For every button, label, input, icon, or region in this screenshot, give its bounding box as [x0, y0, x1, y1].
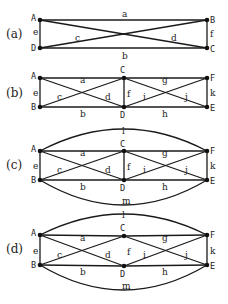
- edge-label-j: j: [184, 250, 188, 260]
- edge-b: [40, 265, 124, 266]
- edge-label-l: l: [122, 126, 125, 136]
- node-F: [205, 233, 210, 238]
- node-F: [205, 149, 210, 154]
- node-D: [122, 178, 127, 183]
- node-label-D: D: [120, 269, 125, 279]
- edge-label-m: m: [122, 196, 131, 206]
- edge-label-f: f: [127, 247, 131, 257]
- edge-label-i: i: [143, 250, 146, 260]
- edge-label-e: e: [33, 27, 38, 37]
- node-B: [38, 263, 43, 268]
- node-label-C: C: [120, 65, 125, 75]
- panel-c: lmabcdefghijkACFBDE(c): [6, 126, 216, 206]
- node-label-B: B: [210, 15, 215, 25]
- edge-label-l: l: [122, 210, 125, 220]
- edge-label-a: a: [80, 233, 86, 243]
- node-B: [38, 178, 43, 183]
- edge-label-b: b: [80, 267, 86, 277]
- node-label-F: F: [210, 73, 215, 83]
- edge-label-j: j: [184, 92, 188, 102]
- edge-label-b: b: [80, 109, 86, 119]
- edge-h: [124, 265, 207, 266]
- node-B: [38, 105, 43, 110]
- edge-label-a: a: [122, 9, 128, 19]
- edge-label-b: b: [80, 182, 86, 192]
- node-C: [122, 76, 127, 81]
- edge-label-k: k: [210, 88, 216, 98]
- edge-label-c: c: [57, 250, 62, 260]
- node-A: [38, 18, 43, 23]
- node-label-D: D: [120, 183, 125, 193]
- node-B: [205, 18, 210, 23]
- panel-label-a: (a): [6, 27, 23, 41]
- edge-label-h: h: [162, 109, 168, 119]
- node-F: [205, 76, 210, 81]
- graph-diagram: abcdefABCD(a)abcdefghijkACFBDE(b)lmabcde…: [0, 0, 228, 304]
- edge-label-f: f: [127, 89, 131, 99]
- edge-label-a: a: [80, 148, 86, 158]
- edge-label-c: c: [57, 165, 62, 175]
- panel-label-d: (d): [6, 242, 23, 256]
- panel-a: abcdefABCD(a): [6, 9, 215, 61]
- edge-label-f: f: [210, 29, 214, 39]
- panel-b: abcdefghijkACFBDE(b): [6, 65, 216, 120]
- node-label-E: E: [210, 261, 215, 271]
- node-label-B: B: [31, 175, 36, 185]
- node-label-D: D: [120, 110, 125, 120]
- node-A: [38, 149, 43, 154]
- node-E: [205, 105, 210, 110]
- panel-d: lmabcdefghijkACFBDE(d): [6, 210, 216, 291]
- edge-label-d: d: [171, 33, 177, 43]
- node-label-B: B: [31, 102, 36, 112]
- edge-label-c: c: [75, 33, 80, 43]
- node-C: [122, 149, 127, 154]
- edge-label-a: a: [80, 75, 86, 85]
- node-label-F: F: [210, 146, 215, 156]
- node-label-A: A: [31, 13, 36, 23]
- edge-label-c: c: [57, 92, 62, 102]
- node-A: [38, 233, 43, 238]
- node-label-E: E: [210, 103, 215, 113]
- edge-label-k: k: [210, 161, 216, 171]
- edge-label-h: h: [162, 182, 168, 192]
- node-E: [205, 178, 210, 183]
- node-E: [205, 263, 210, 268]
- edge-label-k: k: [210, 246, 216, 256]
- node-label-F: F: [210, 230, 215, 240]
- node-D: [122, 105, 127, 110]
- edge-label-g: g: [162, 233, 168, 243]
- edge-label-j: j: [184, 165, 188, 175]
- node-label-A: A: [31, 144, 36, 154]
- node-D: [38, 46, 43, 51]
- node-label-A: A: [31, 228, 36, 238]
- node-label-C: C: [120, 223, 125, 233]
- edge-label-f: f: [127, 162, 131, 172]
- node-D: [122, 264, 127, 269]
- node-label-A: A: [31, 71, 36, 81]
- edge-label-b: b: [122, 51, 128, 61]
- edge-label-m: m: [122, 281, 131, 291]
- node-label-E: E: [210, 176, 215, 186]
- edge-label-g: g: [162, 148, 168, 158]
- edge-label-i: i: [143, 165, 146, 175]
- edge-label-g: g: [162, 75, 168, 85]
- node-C: [122, 234, 127, 239]
- edge-label-e: e: [33, 161, 38, 171]
- edge-label-e: e: [33, 88, 38, 98]
- panel-label-b: (b): [6, 86, 23, 100]
- node-label-C: C: [120, 139, 125, 149]
- node-label-D: D: [31, 43, 36, 53]
- node-label-B: B: [31, 260, 36, 270]
- edge-label-e: e: [33, 246, 38, 256]
- edge-label-d: d: [105, 92, 111, 102]
- edge-label-d: d: [105, 165, 111, 175]
- edge-label-h: h: [162, 267, 168, 277]
- node-label-C: C: [210, 44, 215, 54]
- edge-label-d: d: [105, 250, 111, 260]
- node-A: [38, 76, 43, 81]
- node-C: [205, 46, 210, 51]
- panel-label-c: (c): [6, 158, 22, 172]
- edge-label-i: i: [143, 92, 146, 102]
